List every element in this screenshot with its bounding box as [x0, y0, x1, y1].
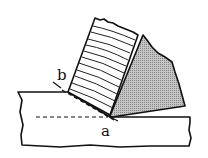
label-a: a [101, 122, 110, 140]
label-b: b [57, 66, 67, 84]
chip-formation-diagram: b a [0, 0, 208, 158]
